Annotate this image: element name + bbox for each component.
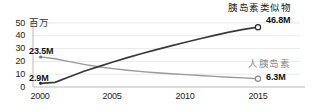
marker-human-insulin-end — [255, 76, 260, 81]
x-tick-2000: 2000 — [25, 92, 55, 101]
y-tick-0: 0 — [9, 83, 25, 92]
y-axis-unit-label: 百万 — [29, 18, 49, 28]
y-tick-20: 20 — [9, 57, 25, 66]
data-label-human-insulin-start: 23.5M — [29, 47, 54, 56]
y-tick-40: 40 — [9, 31, 25, 40]
marker-insulin-analogues-end — [255, 25, 260, 30]
x-tick-2010: 2010 — [170, 92, 200, 101]
data-label-insulin-analogues-start: 2.9M — [29, 74, 49, 83]
series-label-human-insulin: 人胰岛素 — [248, 58, 290, 69]
x-tick-2005: 2005 — [97, 92, 127, 101]
data-label-human-insulin-end: 6.3M — [266, 73, 286, 82]
line-chart: 50 40 30 20 10 0 百万 2000 2005 2010 2015 … — [0, 0, 313, 110]
data-label-insulin-analogues-end: 46.8M — [266, 16, 291, 25]
series-label-insulin-analogues: 胰岛素类似物 — [228, 2, 292, 13]
y-tick-50: 50 — [9, 19, 25, 28]
x-tick-2015: 2015 — [243, 92, 273, 101]
y-tick-30: 30 — [9, 44, 25, 53]
y-tick-10: 10 — [9, 70, 25, 79]
